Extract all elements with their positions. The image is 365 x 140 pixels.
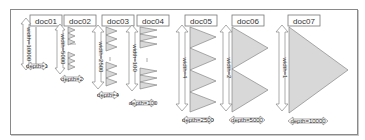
doc02-depth-label: depth=2 — [61, 76, 84, 82]
doc04-label: doc04 — [142, 17, 164, 26]
doc07-depth-label: depth=10000 — [290, 118, 326, 124]
doc03-depth-label: depth=4 — [97, 92, 120, 98]
doc07-label: doc07 — [293, 17, 315, 26]
doc05-label: doc05 — [190, 17, 212, 26]
doc01-label: doc01 — [35, 17, 57, 26]
doc07-group: doc07 width=1 depth=10000 — [276, 15, 348, 125]
doc06-group: doc06 width=2 depth=5000 — [220, 15, 268, 124]
doc05-group: doc05 width=4 depth=2500 — [176, 15, 217, 124]
doc02-label: doc02 — [69, 17, 91, 26]
doc05-width-label: width=4 — [182, 57, 188, 80]
doc04-group: doc04 width=100 depth=100 — [126, 15, 169, 107]
doc06-label: doc06 — [237, 17, 259, 26]
doc03-label: doc03 — [107, 17, 129, 26]
doc04-depth-label: depth=100 — [129, 100, 158, 106]
doc06-width-label: width=2 — [226, 57, 232, 80]
doc01-width-label: width=10000 — [26, 26, 32, 62]
doc02-group: doc02 width=5000 depth=2 — [55, 15, 96, 83]
doc07-width-label: width=1 — [282, 57, 288, 80]
doc03-width-label: width=2500 — [98, 41, 104, 74]
doc01-depth-label: depth=1 — [26, 63, 49, 69]
doc02-width-label: width=5000 — [60, 33, 66, 66]
doc04-width-label: width=100 — [132, 43, 138, 72]
doc06-depth-label: depth=5000 — [231, 117, 264, 123]
doc01-group: doc01 width=10000 depth=1 — [21, 15, 62, 70]
tree-shape-diagram: doc01 width=10000 depth=1 doc02 width=50… — [0, 0, 365, 140]
doc05-depth-label: depth=2500 — [182, 117, 215, 123]
